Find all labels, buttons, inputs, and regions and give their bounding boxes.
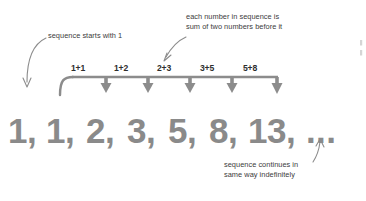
- annotation-sum-rule: each number in sequence is sum of two nu…: [186, 12, 282, 31]
- bracket-arrowhead-3: [185, 83, 196, 93]
- annotation-sequence-continues-line-1: sequence continues in: [224, 160, 298, 170]
- edge-fragment-mark-2: [360, 50, 362, 56]
- annotation-sequence-starts: sequence starts with 1: [48, 31, 122, 41]
- bracket-arrowhead-2: [143, 83, 154, 93]
- callout-arrow-rule-curve: [166, 37, 186, 57]
- bracket-arrowhead-4: [227, 83, 238, 93]
- sequence-term-6: 8,: [209, 111, 237, 151]
- sequence-term-3: 2,: [86, 111, 114, 151]
- bracket-arrow-group: [101, 77, 283, 94]
- annotation-sequence-continues: sequence continues in same way indefinit…: [224, 160, 298, 179]
- callout-arrow-start-curve: [27, 38, 46, 82]
- operation-label-5: 5+8: [243, 63, 257, 73]
- bracket-left-tail: [60, 77, 73, 95]
- callout-arrow-start: [23, 38, 46, 87]
- operation-label-3: 2+3: [157, 63, 171, 73]
- annotation-sequence-continues-line-2: same way indefinitely: [224, 170, 298, 180]
- sequence-term-4: 3,: [127, 111, 155, 151]
- sequence-ellipsis: ...: [306, 111, 336, 151]
- bracket-arrowhead-5: [272, 83, 283, 94]
- edge-text-fragment: [360, 40, 362, 56]
- sequence-term-5: 5,: [168, 111, 196, 151]
- annotation-sum-rule-line-2: sum of two numbers before it: [186, 22, 282, 32]
- operation-label-4: 3+5: [200, 63, 214, 73]
- sequence-term-1: 1,: [8, 111, 36, 151]
- sequence-term-2: 1,: [46, 111, 74, 151]
- operation-label-2: 1+2: [114, 63, 128, 73]
- fibonacci-diagram: 1+1 1+2 2+3 3+5 5+8 1, 1, 2, 3, 5, 8, 13…: [0, 0, 366, 201]
- callout-arrow-rule: [164, 37, 186, 61]
- operation-label-1: 1+1: [71, 63, 85, 73]
- bracket-arrowhead-1: [101, 83, 112, 93]
- annotation-sum-rule-line-1: each number in sequence is: [186, 12, 282, 22]
- edge-fragment-mark-1: [360, 40, 362, 46]
- sequence-term-7: 13,: [248, 111, 295, 151]
- summation-bracket: [60, 77, 283, 95]
- annotation-sequence-starts-line-1: sequence starts with 1: [48, 31, 122, 41]
